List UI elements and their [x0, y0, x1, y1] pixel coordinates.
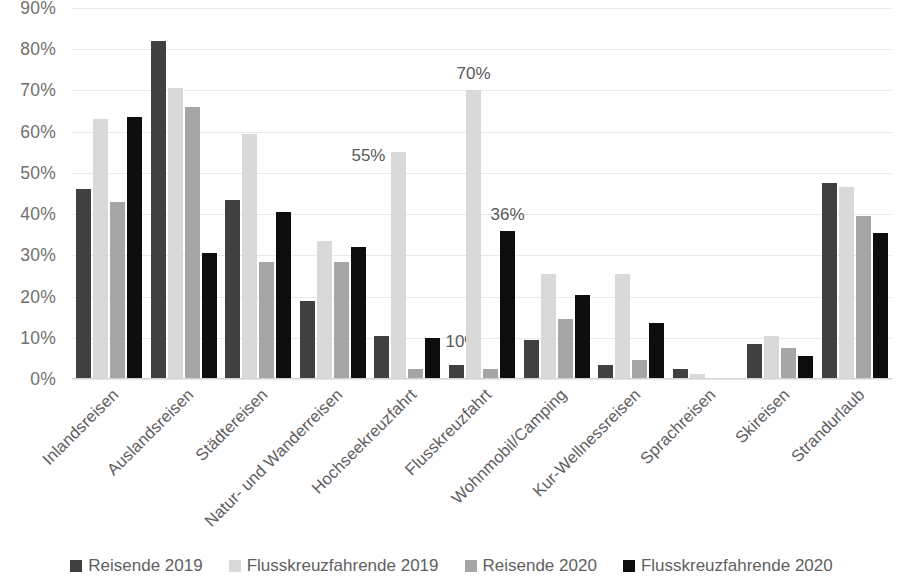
- bar[interactable]: [202, 253, 217, 379]
- bar[interactable]: [558, 319, 573, 379]
- bar[interactable]: [374, 336, 389, 379]
- y-axis-tick-label: 80%: [20, 39, 56, 60]
- legend-label: Reisende 2020: [483, 556, 597, 576]
- bar[interactable]: [110, 202, 125, 379]
- legend-item[interactable]: Reisende 2019: [70, 556, 202, 576]
- y-axis-tick-label: 30%: [20, 245, 56, 266]
- bar[interactable]: 10%: [425, 338, 440, 379]
- bar[interactable]: [781, 348, 796, 379]
- bar-chart: 0%10%20%30%40%50%60%70%80%90% 55%10%70%3…: [0, 0, 903, 582]
- legend-swatch-icon: [623, 560, 635, 572]
- x-axis-labels: InlandsreisenAuslandsreisenStädtereisenN…: [72, 379, 892, 539]
- y-axis-tick-label: 0%: [30, 369, 56, 390]
- bar-groups: 55%10%70%36%: [72, 8, 892, 379]
- plot-area: 55%10%70%36%: [72, 8, 892, 379]
- bar-group: 70%36%: [445, 8, 520, 379]
- legend-item[interactable]: Reisende 2020: [465, 556, 597, 576]
- bar[interactable]: [127, 117, 142, 379]
- bar[interactable]: 36%: [500, 231, 515, 379]
- legend-swatch-icon: [465, 560, 477, 572]
- legend-label: Reisende 2019: [88, 556, 202, 576]
- legend-label: Flusskreuzfahrende 2020: [641, 556, 833, 576]
- bar[interactable]: 55%: [391, 152, 406, 379]
- bar[interactable]: [351, 247, 366, 379]
- bar-group: [594, 8, 669, 379]
- legend-item[interactable]: Flusskreuzfahrende 2020: [623, 556, 833, 576]
- x-axis-category-label: Strandurlaub: [787, 385, 868, 466]
- bar[interactable]: [541, 274, 556, 379]
- bar[interactable]: [168, 88, 183, 379]
- bar[interactable]: [185, 107, 200, 379]
- x-axis-category-label: Natur- und Wanderreisen: [201, 385, 347, 531]
- legend-swatch-icon: [70, 560, 82, 572]
- bar-group: [72, 8, 147, 379]
- legend-label: Flusskreuzfahrende 2019: [247, 556, 439, 576]
- bar[interactable]: [276, 212, 291, 379]
- bar[interactable]: [632, 360, 647, 379]
- bar[interactable]: [259, 262, 274, 379]
- bar[interactable]: [225, 200, 240, 379]
- bar-group: [743, 8, 818, 379]
- y-axis-tick-label: 10%: [20, 327, 56, 348]
- bar-group: [817, 8, 892, 379]
- bar[interactable]: [839, 187, 854, 379]
- bar-group: [668, 8, 743, 379]
- bar[interactable]: 70%: [466, 90, 481, 379]
- bar-group: 55%10%: [370, 8, 445, 379]
- bar-group: [221, 8, 296, 379]
- y-axis-tick-label: 60%: [20, 121, 56, 142]
- bar[interactable]: [76, 189, 91, 379]
- legend-item[interactable]: Flusskreuzfahrende 2019: [229, 556, 439, 576]
- bar[interactable]: [575, 295, 590, 380]
- bar[interactable]: [151, 41, 166, 379]
- y-axis-tick-label: 90%: [20, 0, 56, 19]
- bar[interactable]: [524, 340, 539, 379]
- bar[interactable]: [856, 216, 871, 379]
- x-axis-category-label: Sprachreisen: [636, 385, 719, 468]
- x-axis-category-label: Inlandsreisen: [39, 385, 123, 469]
- bar[interactable]: [615, 274, 630, 379]
- y-axis-tick-label: 70%: [20, 80, 56, 101]
- bar[interactable]: [334, 262, 349, 379]
- bar[interactable]: [747, 344, 762, 379]
- bar[interactable]: [649, 323, 664, 379]
- bar[interactable]: [93, 119, 108, 379]
- x-axis-category-label: Skireisen: [732, 385, 794, 447]
- bar[interactable]: [764, 336, 779, 379]
- bar[interactable]: [798, 356, 813, 379]
- bar-data-label: 55%: [351, 146, 385, 166]
- bar[interactable]: [317, 241, 332, 379]
- y-axis: 0%10%20%30%40%50%60%70%80%90%: [0, 0, 66, 392]
- bar-data-label: 70%: [456, 64, 490, 84]
- bar[interactable]: [873, 233, 888, 379]
- bar-group: [519, 8, 594, 379]
- bar[interactable]: [242, 134, 257, 379]
- chart-legend: Reisende 2019Flusskreuzfahrende 2019Reis…: [0, 556, 903, 576]
- y-axis-tick-label: 50%: [20, 162, 56, 183]
- bar-group: [147, 8, 222, 379]
- legend-swatch-icon: [229, 560, 241, 572]
- bar-group: [296, 8, 371, 379]
- y-axis-tick-label: 40%: [20, 204, 56, 225]
- bar[interactable]: [598, 365, 613, 379]
- bar[interactable]: [449, 365, 464, 379]
- x-axis-category-label: Städtereisen: [192, 385, 272, 465]
- bar[interactable]: [300, 301, 315, 379]
- bar[interactable]: [822, 183, 837, 379]
- y-axis-tick-label: 20%: [20, 286, 56, 307]
